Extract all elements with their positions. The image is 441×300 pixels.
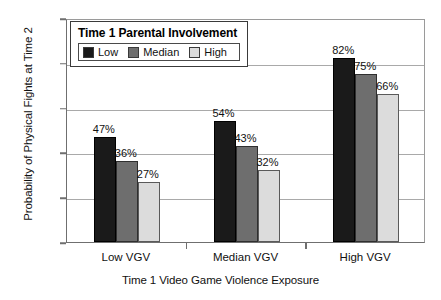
legend-item: Low bbox=[83, 46, 118, 58]
bar bbox=[258, 170, 280, 242]
bar bbox=[116, 161, 138, 242]
bar bbox=[214, 121, 236, 242]
bar-value-label: 43% bbox=[234, 132, 256, 144]
bar-chart: Probability of Physical Fights at Time 2… bbox=[0, 0, 441, 300]
bar bbox=[236, 146, 258, 242]
bar-value-label: 54% bbox=[212, 107, 234, 119]
x-axis-title: Time 1 Video Game Violence Exposure bbox=[0, 274, 441, 286]
bar-value-label: 32% bbox=[256, 156, 278, 168]
bar bbox=[355, 74, 377, 242]
x-tick-label: Low VGV bbox=[102, 251, 151, 263]
y-axis-title: Probability of Physical Fights at Time 2 bbox=[22, 4, 34, 244]
x-tick-label: High VGV bbox=[340, 251, 391, 263]
x-tick-mark bbox=[186, 243, 188, 249]
legend-swatch-icon bbox=[189, 47, 200, 58]
legend-item: High bbox=[189, 46, 227, 58]
bar-value-label: 66% bbox=[376, 80, 398, 92]
x-tick-label: Median VGV bbox=[213, 251, 278, 263]
legend-label: Low bbox=[98, 46, 118, 58]
legend: Time 1 Parental Involvement LowMedianHig… bbox=[70, 21, 248, 67]
legend-items: LowMedianHigh bbox=[78, 43, 240, 61]
legend-label: Median bbox=[143, 46, 179, 58]
x-tick-mark bbox=[305, 243, 307, 249]
bar-value-label: 82% bbox=[332, 44, 354, 56]
legend-title: Time 1 Parental Involvement bbox=[78, 26, 240, 40]
bar-value-label: 47% bbox=[93, 123, 115, 135]
bar bbox=[333, 58, 355, 242]
legend-label: High bbox=[204, 46, 227, 58]
legend-swatch-icon bbox=[128, 47, 139, 58]
bar bbox=[377, 94, 399, 242]
bar-value-label: 36% bbox=[115, 147, 137, 159]
bar-value-label: 27% bbox=[137, 168, 159, 180]
bar bbox=[94, 137, 116, 242]
bar bbox=[138, 182, 160, 242]
bar-value-label: 75% bbox=[354, 60, 376, 72]
legend-swatch-icon bbox=[83, 47, 94, 58]
legend-item: Median bbox=[128, 46, 179, 58]
